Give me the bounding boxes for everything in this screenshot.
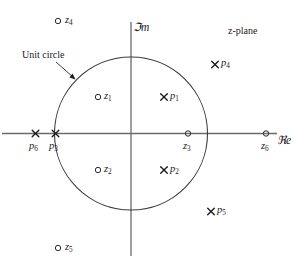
label-p2-sub: 2 — [175, 168, 179, 176]
label-z5-sub: 5 — [69, 246, 73, 254]
real-axis-label: ℜe — [277, 135, 291, 147]
label-p3-sub: 3 — [54, 145, 58, 153]
label-p5-sub: 5 — [222, 209, 226, 217]
pole-marker-p2 — [161, 167, 168, 174]
label-p3: p3 — [49, 141, 58, 152]
label-z6-sub: 6 — [265, 145, 269, 153]
label-z2: z2 — [104, 164, 112, 175]
label-z3-sub: 3 — [187, 145, 191, 153]
label-z5: z5 — [65, 242, 73, 253]
label-p2: p2 — [170, 164, 179, 175]
zero-marker-z4 — [55, 18, 60, 23]
zero-marker-z2 — [95, 167, 100, 172]
plane-title: z-plane — [228, 26, 257, 36]
z-plane-pole-zero-figure: ℑm ℜe z-plane Unit circle z1 z2 z3 z4 z5… — [0, 0, 296, 273]
unit-circle-leader — [56, 62, 76, 80]
label-z2-sub: 2 — [108, 168, 112, 176]
label-p5: p5 — [217, 205, 226, 216]
label-p6-sub: 6 — [34, 145, 38, 153]
zero-marker-z5 — [55, 245, 60, 250]
label-z6: z6 — [261, 141, 269, 152]
label-p4: p4 — [221, 58, 230, 69]
label-z4-sub: 4 — [69, 19, 73, 27]
label-z3: z3 — [183, 141, 191, 152]
label-z4: z4 — [65, 15, 73, 26]
unit-circle-annotation: Unit circle — [22, 50, 64, 60]
label-p1: p1 — [170, 91, 179, 102]
pole-zero-plot — [0, 0, 296, 273]
label-z1-sub: 1 — [108, 95, 112, 103]
pole-marker-p5 — [208, 208, 215, 215]
label-p4-sub: 4 — [226, 62, 230, 70]
pole-marker-p4 — [212, 61, 219, 68]
pole-marker-p1 — [161, 94, 168, 101]
pole-markers — [32, 61, 218, 215]
label-p6: p6 — [29, 141, 38, 152]
zero-markers — [55, 18, 268, 250]
label-z1: z1 — [104, 91, 112, 102]
label-p1-sub: 1 — [175, 95, 179, 103]
imaginary-axis-label: ℑm — [133, 22, 149, 34]
zero-marker-z1 — [95, 94, 100, 99]
